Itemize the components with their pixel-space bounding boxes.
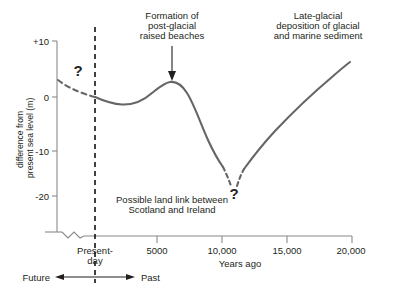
- y-tick-label-0: 0: [44, 92, 49, 103]
- x-axis-title: Years ago: [219, 258, 261, 269]
- y-axis-title-line2: present sea level (m): [25, 98, 35, 178]
- y-tick-label-minus20: -20: [35, 191, 49, 202]
- y-tick-label-plus10: +10: [33, 36, 49, 47]
- curve-segment-late-glacial-solid: [244, 62, 350, 169]
- x-tick-label-5000: 5000: [146, 245, 167, 256]
- curve-segment-lowstand-ascending-dashed: [237, 169, 244, 186]
- x-tick-label-10000: 10,000: [207, 245, 236, 256]
- annotation-land-link: Possible land link between Scotland and …: [116, 194, 228, 215]
- curve-segment-holocene-solid: [95, 82, 223, 167]
- curve-segment-future-dashed: [58, 80, 95, 97]
- annotation-late-glacial-line3: and marine sediment: [274, 30, 363, 41]
- curve-segment-lowstand-descending-dashed: [223, 167, 231, 186]
- annotation-late-glacial: Late-glacial deposition of glacial and m…: [274, 10, 363, 41]
- present-day-label-line2: day: [87, 255, 103, 266]
- x-axis-break-zigzag: [62, 232, 84, 238]
- sea-level-chart: difference from present sea level (m) +1…: [0, 0, 396, 295]
- chart-canvas: difference from present sea level (m) +1…: [0, 0, 396, 295]
- x-tick-label-20000: 20,000: [336, 245, 365, 256]
- y-axis-title: difference from present sea level (m): [15, 98, 35, 178]
- x-tick-label-15000: 15,000: [272, 245, 301, 256]
- annotation-raised-beaches: Formation of post-glacial raised beaches: [140, 10, 205, 41]
- raised-beaches-arrow: [168, 46, 176, 81]
- question-mark-future: ?: [73, 62, 82, 79]
- sea-level-curve-group: [58, 62, 350, 186]
- annotation-land-link-line2: Scotland and Ireland: [128, 204, 215, 215]
- y-tick-label-minus10: -10: [35, 146, 49, 157]
- annotation-raised-beaches-line3: raised beaches: [140, 30, 205, 41]
- y-axis-title-line1: difference from: [15, 111, 25, 168]
- direction-label-past: Past: [141, 272, 160, 283]
- direction-label-future: Future: [23, 272, 50, 283]
- question-mark-lowstand: ?: [229, 185, 238, 202]
